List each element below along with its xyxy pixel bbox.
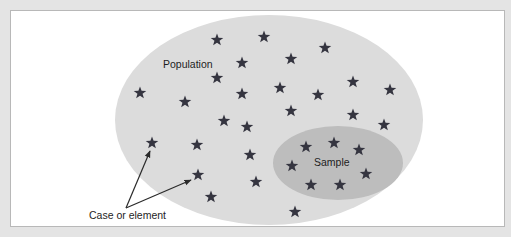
population-label: Population	[163, 58, 213, 70]
population-ellipse	[115, 15, 423, 225]
sample-label: Sample	[314, 156, 350, 168]
population-sample-diagram: Population Sample Case or element	[0, 0, 511, 237]
case-or-element-label: Case or element	[89, 209, 166, 221]
